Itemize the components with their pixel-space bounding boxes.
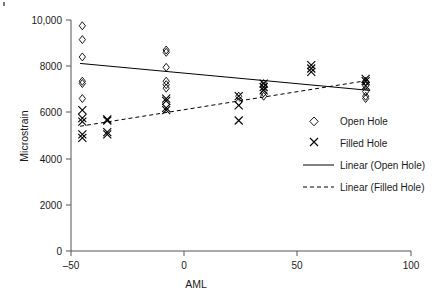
y-tick-label: 0 (56, 246, 62, 257)
plot-data-layer (78, 22, 370, 142)
y-axis-ticks (66, 20, 71, 251)
cross-icon (310, 138, 318, 146)
corner-artifact (3, 2, 5, 6)
series-diamond (79, 22, 369, 106)
y-tick-label: 8000 (40, 61, 63, 72)
legend-item-linear-filled-hole: Linear (Filled Hole) (303, 182, 424, 193)
y-tick-label: 10,000 (31, 15, 62, 26)
x-tick-label: 0 (181, 260, 187, 271)
scatter-chart: 10,000 8000 6000 4000 2000 0 –50 0 50 10… (0, 0, 446, 291)
legend-label: Linear (Filled Hole) (340, 182, 424, 193)
series-cross (78, 61, 369, 142)
data-point-cross (78, 106, 86, 114)
x-axis-tick-labels: –50 0 50 100 (63, 260, 420, 271)
data-point-cross (235, 101, 243, 109)
data-point-diamond (79, 36, 85, 44)
data-point-cross (103, 116, 111, 124)
legend-label: Open Hole (340, 116, 388, 127)
chart-page: 10,000 8000 6000 4000 2000 0 –50 0 50 10… (0, 0, 446, 291)
y-tick-label: 4000 (40, 154, 63, 165)
diamond-icon (310, 117, 318, 126)
legend-item-open-hole: Open Hole (310, 116, 388, 127)
legend-label: Filled Hole (340, 138, 388, 149)
data-point-diamond (79, 95, 85, 103)
legend-item-linear-open-hole: Linear (Open Hole) (303, 160, 425, 171)
x-tick-label: 50 (291, 260, 303, 271)
x-axis-title: AML (185, 278, 207, 290)
chart-legend: Open Hole Filled Hole Linear (Open Hole)… (303, 116, 425, 193)
data-point-diamond (79, 22, 85, 30)
legend-item-filled-hole: Filled Hole (310, 138, 388, 149)
data-point-diamond (163, 63, 169, 71)
y-tick-label: 2000 (40, 200, 63, 211)
legend-label: Linear (Open Hole) (340, 160, 425, 171)
data-point-diamond (79, 53, 85, 61)
x-tick-label: –50 (63, 260, 80, 271)
x-tick-label: 100 (403, 260, 420, 271)
y-tick-label: 6000 (40, 107, 63, 118)
data-point-cross (103, 115, 111, 123)
data-point-cross (235, 116, 243, 124)
y-axis-tick-labels: 10,000 8000 6000 4000 2000 0 (31, 15, 62, 257)
trendline-solid (80, 63, 370, 90)
x-axis-ticks (71, 251, 411, 256)
trendline-dashed (80, 80, 370, 126)
y-axis-title: Microstrain (18, 110, 30, 162)
